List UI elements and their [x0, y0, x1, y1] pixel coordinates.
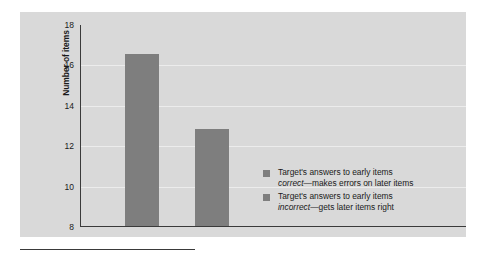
- y-tick-label-14: 14: [34, 101, 74, 111]
- legend-label-correct-line1: Target's answers to early items: [278, 167, 468, 178]
- legend-label-incorrect-line1: Target's answers to early items: [278, 191, 468, 202]
- legend-entry-correct: Target's answers to early items correct—…: [263, 167, 468, 188]
- legend-emphasis-incorrect: incorrect: [278, 202, 310, 212]
- legend-label-incorrect-line2: incorrect—gets later items right: [278, 202, 468, 213]
- legend-swatch-incorrect: [263, 194, 270, 201]
- y-tick-label-10: 10: [34, 182, 74, 192]
- y-tick-label-8: 8: [34, 222, 74, 232]
- chart-legend: Target's answers to early items correct—…: [263, 167, 468, 215]
- legend-swatch-correct: [263, 170, 270, 177]
- chart-panel: Number of items 18 16 14 12 10 8 Target'…: [20, 12, 466, 237]
- legend-entry-incorrect: Target's answers to early items incorrec…: [263, 191, 468, 212]
- y-tick-label-18: 18: [34, 20, 74, 30]
- bar-correct: [125, 54, 159, 226]
- legend-label-correct-line2: correct—makes errors on later items: [278, 178, 468, 189]
- legend-emphasis-correct: correct: [278, 178, 304, 188]
- x-axis-line: [80, 226, 466, 227]
- legend-rest-incorrect: —gets later items right: [310, 202, 394, 212]
- bar-incorrect: [195, 129, 229, 226]
- y-tick-label-16: 16: [34, 60, 74, 70]
- y-axis-tick-labels: 18 16 14 12 10 8: [30, 25, 74, 227]
- y-tick-label-12: 12: [34, 141, 74, 151]
- legend-rest-correct: —makes errors on later items: [304, 178, 414, 188]
- y-axis-line: [80, 25, 81, 227]
- footnote-separator-rule: [20, 249, 195, 250]
